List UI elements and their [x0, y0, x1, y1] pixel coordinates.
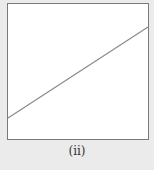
straight-line [8, 27, 148, 118]
figure-caption: (ii) [0, 144, 154, 158]
